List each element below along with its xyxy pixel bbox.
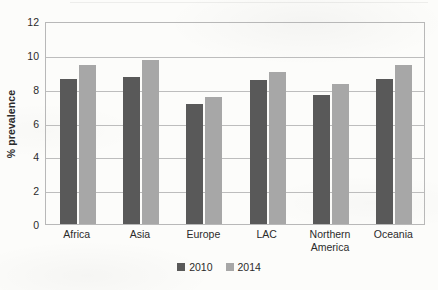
legend-item: 2014 xyxy=(226,261,261,273)
x-tick-label: LAC xyxy=(233,228,301,241)
bar xyxy=(142,60,159,224)
y-tick-label: 8 xyxy=(33,84,39,96)
bar xyxy=(332,84,349,224)
bars-layer xyxy=(46,23,424,224)
bar xyxy=(269,72,286,224)
legend-swatch-icon xyxy=(226,263,234,271)
x-tick-label: Africa xyxy=(43,228,111,241)
bar xyxy=(205,97,222,224)
legend-swatch-icon xyxy=(177,263,185,271)
bar-group xyxy=(186,23,222,224)
bar xyxy=(123,77,140,224)
y-tick-label: 2 xyxy=(33,185,39,197)
bar xyxy=(250,80,267,224)
x-tick-label: Asia xyxy=(106,228,174,241)
bar xyxy=(79,65,96,224)
y-tick-label: 12 xyxy=(27,16,39,28)
chart-legend: 20102014 xyxy=(0,261,438,273)
bar-group xyxy=(60,23,96,224)
y-tick-label: 6 xyxy=(33,118,39,130)
y-tick-label: 4 xyxy=(33,151,39,163)
x-tick-label: Europe xyxy=(169,228,237,241)
x-tick-label: Northern America xyxy=(296,228,364,253)
bar xyxy=(313,95,330,224)
legend-label: 2014 xyxy=(238,261,261,273)
y-tick-label: 10 xyxy=(27,50,39,62)
y-axis-title-label: % prevalence xyxy=(5,89,17,157)
legend-label: 2010 xyxy=(189,261,212,273)
bar-group xyxy=(123,23,159,224)
x-axis-tick-labels: AfricaAsiaEuropeLACNorthern AmericaOcean… xyxy=(45,228,425,258)
bar xyxy=(395,65,412,224)
bar xyxy=(60,79,77,224)
bar-group xyxy=(313,23,349,224)
y-axis-title: % prevalence xyxy=(4,22,18,225)
y-axis-tick-labels: 024681012 xyxy=(18,22,42,225)
bar-group xyxy=(250,23,286,224)
bar xyxy=(376,79,393,224)
y-tick-label: 0 xyxy=(33,219,39,231)
bar-group xyxy=(376,23,412,224)
x-tick-label: Oceania xyxy=(359,228,427,241)
legend-item: 2010 xyxy=(177,261,212,273)
plot-area xyxy=(45,22,425,225)
bar xyxy=(186,104,203,224)
grouped-bar-chart: % prevalence 024681012 AfricaAsiaEuropeL… xyxy=(0,0,438,290)
